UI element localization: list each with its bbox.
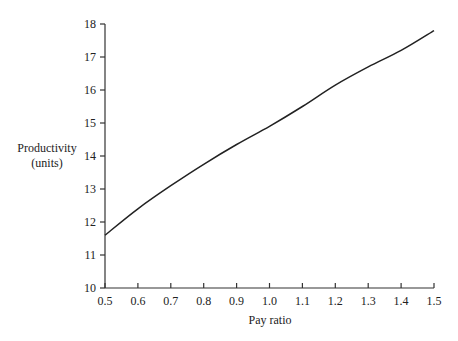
y-tick-label: 17 (84, 50, 96, 64)
x-axis-label: Pay ratio (249, 313, 292, 327)
productivity-line (105, 31, 434, 236)
chart: 101112131415161718 0.50.60.70.80.91.01.1… (0, 0, 458, 341)
axes (105, 24, 434, 288)
y-tick-label: 11 (84, 248, 96, 262)
y-axis-label-line2: (units) (31, 156, 62, 170)
y-tick-label: 13 (84, 182, 96, 196)
x-tick-label: 1.3 (361, 294, 376, 308)
y-tick-label: 10 (84, 281, 96, 295)
x-tick-label: 1.1 (295, 294, 310, 308)
x-tick-label: 1.0 (262, 294, 277, 308)
x-tick-label: 1.5 (427, 294, 442, 308)
x-tick-label: 1.4 (394, 294, 409, 308)
y-tick-label: 14 (84, 149, 96, 163)
x-tick-label: 0.6 (130, 294, 145, 308)
x-tick-label: 0.5 (98, 294, 113, 308)
y-axis-label-line1: Productivity (17, 141, 76, 155)
x-axis-ticks: 0.50.60.70.80.91.01.11.21.31.41.5 (98, 283, 442, 308)
y-tick-label: 18 (84, 17, 96, 31)
y-axis-ticks: 101112131415161718 (84, 17, 105, 295)
y-tick-label: 16 (84, 83, 96, 97)
x-tick-label: 0.7 (163, 294, 178, 308)
x-tick-label: 1.2 (328, 294, 343, 308)
x-tick-label: 0.9 (229, 294, 244, 308)
x-tick-label: 0.8 (196, 294, 211, 308)
y-tick-label: 15 (84, 116, 96, 130)
y-tick-label: 12 (84, 215, 96, 229)
